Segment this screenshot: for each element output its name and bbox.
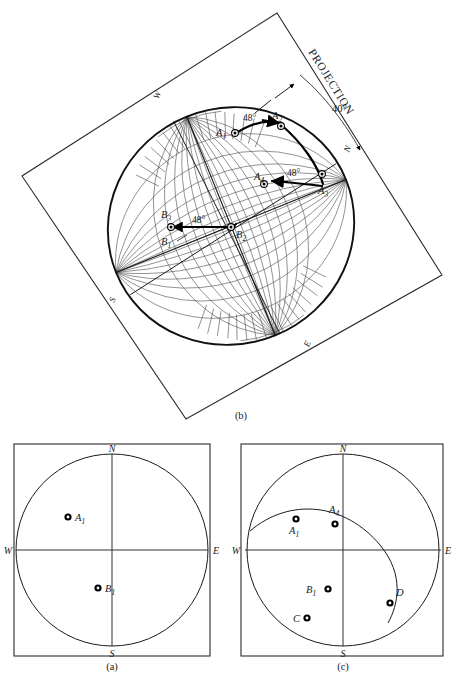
compass-s-label-c: S (341, 648, 346, 659)
point-a1-b (232, 130, 239, 137)
angle-label-a1-a2: 48° (243, 113, 257, 123)
compass-w-label-c: W (232, 545, 242, 556)
panel-c-caption: (c) (337, 661, 349, 673)
point-b2-b (228, 224, 235, 231)
angle-label-b3-b2: 48° (192, 215, 206, 225)
arrow-a3-a4 (272, 181, 288, 182)
compass-s-label-a: S (110, 648, 115, 659)
point-a1-b-label: A1 (215, 127, 226, 141)
point-a3-b (319, 171, 326, 178)
point-b1-c-label: B1 (306, 584, 316, 598)
panel-a: N S W E A1 B1 (a) (4, 443, 219, 673)
compass-n-label-b: N (341, 143, 353, 154)
compass-s-label-b: S (107, 295, 118, 303)
point-a1-a (64, 513, 71, 520)
point-d-c (386, 599, 393, 606)
point-b3-b (168, 224, 175, 231)
point-a1-c (292, 515, 299, 522)
point-a1-a-label: A1 (74, 512, 85, 526)
panel-b: PROJECTION 40° (22, 13, 442, 422)
point-a1-c-label: A1 (288, 525, 299, 539)
tilt-angle-label: 40° (332, 103, 347, 114)
compass-e-label-a: E (212, 545, 219, 556)
point-a4-c-label: A4 (328, 504, 339, 518)
point-b1-a-label: B1 (105, 583, 115, 597)
point-a4-c (331, 520, 338, 527)
figure-root: PROJECTION 40° (0, 0, 462, 683)
point-b1-a (94, 584, 101, 591)
point-b2-b-label: B2 (236, 229, 246, 243)
compass-e-label-b: E (301, 339, 313, 349)
panel-c-great-circle (250, 509, 397, 623)
compass-n-label-a: N (108, 443, 117, 454)
point-c-c (303, 614, 310, 621)
point-b1-c (324, 585, 331, 592)
point-a2-b (278, 123, 285, 130)
point-c-c-label: C (293, 613, 301, 624)
point-a4-b-label: A4 (253, 171, 264, 185)
panel-c: N S W E A1 A4 B1 C D (c) (232, 443, 451, 673)
projection-leader-arrow (275, 84, 294, 98)
compass-e-label-c: E (444, 545, 451, 556)
panel-b-caption: (b) (235, 410, 248, 422)
compass-n-label-c: N (339, 443, 348, 454)
point-b1-b-label: B1 (161, 236, 171, 250)
figure-svg: PROJECTION 40° (0, 0, 462, 683)
point-b3-b-label: B3 (161, 209, 171, 223)
compass-w-label-a: W (4, 545, 14, 556)
projection-plane-outline (22, 13, 442, 419)
angle-label-a4-a3: 48° (287, 168, 301, 178)
panel-a-caption: (a) (106, 661, 118, 673)
point-d-c-label: D (395, 587, 404, 598)
